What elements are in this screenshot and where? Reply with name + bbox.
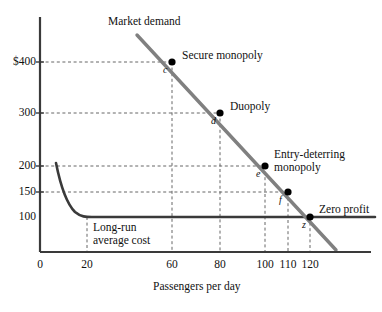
x-tick-label-60: 60	[162, 258, 182, 271]
secure-monopoly-label: Secure monopoly	[182, 49, 263, 62]
marker-point-f[interactable]	[284, 188, 291, 195]
x-tick-label-20: 20	[77, 258, 97, 271]
marker-point-z[interactable]	[306, 213, 313, 220]
x-tick-label-0: 0	[30, 258, 50, 271]
point-label-c: c	[163, 64, 167, 75]
long-run-average-cost-label-line2: average cost	[93, 234, 150, 247]
x-tick-label-120: 120	[297, 258, 323, 271]
zero-profit-label: Zero profit	[319, 203, 369, 216]
data-point-markers	[168, 58, 313, 220]
y-tick-label-400: $400	[4, 55, 36, 68]
y-tick-label-200: 200	[4, 159, 36, 172]
marker-point-e[interactable]	[261, 162, 268, 169]
point-label-f: f	[279, 194, 282, 205]
x-axis-title: Passengers per day	[153, 280, 241, 293]
entry-deterring-monopoly-label-line2: monopoly	[274, 161, 321, 174]
marker-point-c[interactable]	[168, 58, 175, 65]
y-tick-label-150: 150	[4, 185, 36, 198]
marker-point-d[interactable]	[216, 109, 223, 116]
point-label-d: d	[211, 115, 216, 126]
x-tick-label-80: 80	[210, 258, 230, 271]
entry-deterring-monopoly-label-line1: Entry-deterring	[274, 148, 345, 161]
duopoly-label: Duopoly	[230, 100, 270, 113]
point-label-z: z	[302, 219, 306, 230]
y-tick-label-300: 300	[4, 106, 36, 119]
market-demand-label: Market demand	[108, 15, 181, 28]
horizontal-guides	[40, 62, 288, 192]
y-tick-label-100: 100	[4, 210, 36, 223]
long-run-average-cost-label-line1: Long-run	[93, 221, 136, 234]
economics-chart-figure: $400 300 200 150 100 0 20 60 80 100 110 …	[0, 0, 382, 312]
point-label-e: e	[256, 168, 260, 179]
